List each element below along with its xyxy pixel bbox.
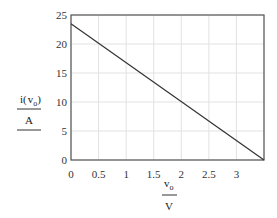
y-label-unit: A: [25, 114, 33, 126]
x-axis-label: vo V: [162, 177, 177, 212]
x-tick-label: 3: [234, 168, 240, 180]
x-label-unit: V: [165, 200, 173, 212]
x-axis-ticks: 00.511.522.53: [68, 168, 239, 180]
y-axis-label: i(vo) A: [17, 93, 41, 130]
y-tick-label: 15: [56, 67, 68, 79]
x-tick-label: 2: [179, 168, 185, 180]
line-chart: 00.511.522.53 0510152025 i(vo) A vo V: [0, 0, 277, 218]
x-tick-label: 1.5: [147, 168, 161, 180]
x-tick-label: 0: [68, 168, 74, 180]
y-tick-label: 20: [56, 38, 68, 50]
plot-frame: [71, 15, 264, 160]
y-tick-label: 0: [62, 154, 68, 166]
x-tick-label: 1: [123, 168, 129, 180]
x-label-var: vo: [164, 177, 174, 192]
grid-lines: [71, 15, 264, 160]
y-axis-ticks: 0510152025: [56, 9, 68, 166]
y-tick-label: 25: [56, 9, 68, 21]
y-tick-label: 10: [56, 96, 68, 108]
x-tick-label: 2.5: [202, 168, 216, 180]
y-label-func: i(vo): [20, 93, 41, 108]
x-tick-label: 0.5: [92, 168, 106, 180]
y-tick-label: 5: [62, 125, 68, 137]
